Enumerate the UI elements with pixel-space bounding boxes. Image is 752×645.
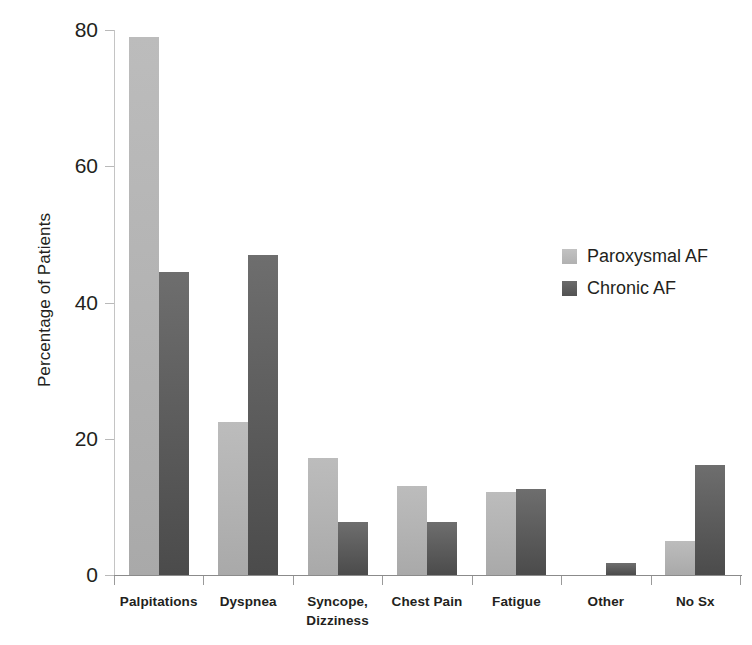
y-tick-mark (105, 30, 114, 31)
bar[interactable] (516, 489, 546, 575)
y-tick-label: 60 (52, 155, 98, 176)
y-tick-mark (105, 439, 114, 440)
x-tick-mark (114, 576, 115, 585)
bar[interactable] (695, 465, 725, 575)
x-tick-mark (561, 576, 562, 585)
bar-group (293, 30, 382, 575)
bar[interactable] (397, 486, 427, 575)
y-tick-mark (105, 303, 114, 304)
bar[interactable] (129, 37, 159, 575)
bar[interactable] (308, 458, 338, 575)
x-tick-mark (293, 576, 294, 585)
x-tick-mark (651, 576, 652, 585)
bar-group (382, 30, 471, 575)
legend-swatch-icon (562, 249, 577, 264)
x-category-label: No Sx (639, 592, 752, 611)
y-tick-label: 0 (52, 564, 98, 585)
bar[interactable] (606, 563, 636, 575)
y-tick-label: 80 (52, 19, 98, 40)
bar[interactable] (486, 492, 516, 575)
legend-label: Paroxysmal AF (587, 246, 708, 267)
bar-group (114, 30, 203, 575)
bar[interactable] (338, 522, 368, 575)
x-axis-line (114, 575, 742, 576)
bar[interactable] (159, 272, 189, 575)
legend-item-paroxysmal-af[interactable]: Paroxysmal AF (562, 243, 708, 270)
x-category-label-line: Dizziness (281, 611, 394, 630)
y-tick-mark (105, 166, 114, 167)
legend-swatch-icon (562, 281, 577, 296)
x-tick-mark (382, 576, 383, 585)
y-tick-mark (105, 575, 114, 576)
y-tick-label: 20 (52, 428, 98, 449)
legend-label: Chronic AF (587, 278, 676, 299)
bar[interactable] (427, 522, 457, 575)
chart-legend: Paroxysmal AF Chronic AF (562, 243, 708, 307)
y-tick-label: 40 (52, 292, 98, 313)
x-tick-mark (740, 576, 741, 585)
x-tick-mark (203, 576, 204, 585)
bar-group (472, 30, 561, 575)
bar-group (203, 30, 292, 575)
bar[interactable] (248, 255, 278, 575)
bar[interactable] (218, 422, 248, 575)
legend-item-chronic-af[interactable]: Chronic AF (562, 275, 708, 302)
bar[interactable] (665, 541, 695, 575)
x-category-label-line: No Sx (639, 592, 752, 611)
x-tick-mark (472, 576, 473, 585)
bar-chart: Percentage of Patients 020406080 Palpita… (0, 0, 752, 645)
